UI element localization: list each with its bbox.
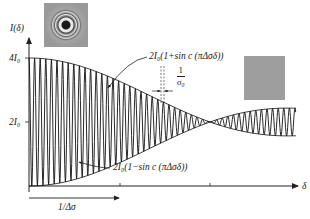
period-label: 1 σ₀ xyxy=(177,66,185,87)
uniform-field-thumbnail xyxy=(244,56,285,100)
lower-envelope-label: 2I₀(1−sin c (πΔσδ)) xyxy=(113,163,188,173)
ring-fringe-thumbnail xyxy=(44,3,88,47)
y-tick-label-4I0: 4I₀ xyxy=(9,54,20,64)
x-axis-label: δ xyxy=(302,182,306,192)
y-axis-label: I(δ) xyxy=(10,24,24,34)
coherence-length-label: 1/Δσ xyxy=(58,203,76,213)
upper-envelope-label: 2I₀(1+sin c (πΔσδ)) xyxy=(149,52,224,62)
y-tick-label-2I0: 2I₀ xyxy=(9,118,20,128)
